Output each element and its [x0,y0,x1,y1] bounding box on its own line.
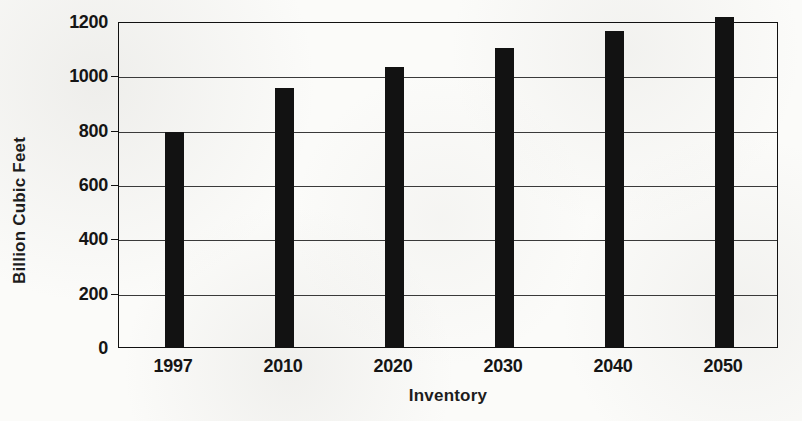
x-axis-tick-label: 2020 [348,356,438,377]
y-axis-title: Billion Cubic Feet [0,0,40,421]
y-axis-tick-mark [111,185,118,186]
x-axis-tick-label: 2010 [238,356,328,377]
gridline [119,240,777,241]
y-axis-tick-mark [111,131,118,132]
x-axis-title: Inventory [118,386,778,406]
bar-2030 [495,48,514,347]
x-axis-tick-label: 2050 [678,356,768,377]
x-axis-tick-label: 2030 [458,356,548,377]
y-axis-tick-mark [111,294,118,295]
gridline [119,186,777,187]
bar-1997 [165,132,184,347]
x-axis-tick-label: 2040 [568,356,658,377]
bar-chart-figure: Billion Cubic Feet 020040060080010001200… [0,0,802,421]
y-axis-tick-mark [111,76,118,77]
bar-2050 [715,17,734,347]
bar-2020 [385,67,404,347]
bar-2040 [605,31,624,347]
bar-2010 [275,88,294,347]
gridline [119,295,777,296]
x-axis-tick-label: 1997 [128,356,218,377]
gridline [119,132,777,133]
gridline [119,77,777,78]
plot-area [118,22,778,348]
y-axis-tick-mark [111,239,118,240]
